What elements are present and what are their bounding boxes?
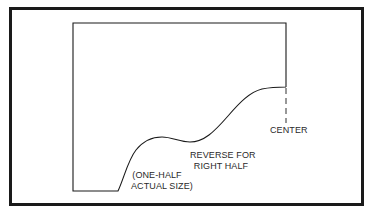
center-text: CENTER [270,125,308,135]
reverse-line1: REVERSE FOR [190,150,252,161]
center-label: CENTER [270,125,308,136]
scale-line1: (ONE-HALF [131,170,183,181]
pattern-outline [73,23,286,191]
scale-line2: ACTUAL SIZE) [131,181,183,192]
reverse-line2: RIGHT HALF [190,161,252,172]
scale-note: (ONE-HALF ACTUAL SIZE) [131,170,183,192]
reverse-note: REVERSE FOR RIGHT HALF [190,150,252,172]
